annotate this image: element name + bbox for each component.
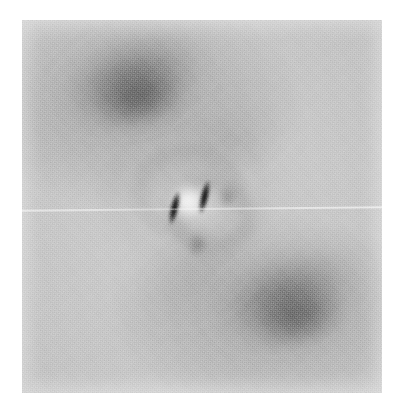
plate-edge-vignette: [22, 20, 382, 393]
micrograph-image-plate: [22, 20, 382, 393]
micrograph-figure: Lorentz transmission electron micrograph: [0, 0, 404, 414]
